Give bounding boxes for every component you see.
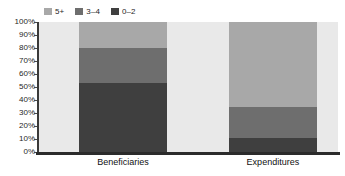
legend-label-3-4: 3–4: [86, 8, 100, 16]
y-axis-tick-label: 20%: [19, 122, 35, 130]
bar-segment[interactable]: [229, 138, 317, 152]
legend-item-3-4: 3–4: [75, 8, 100, 16]
y-axis-labels: 100%90%80%70%60%50%40%30%20%10%0%: [0, 22, 35, 152]
legend-item-5plus: 5+: [44, 8, 64, 16]
y-axis-tick-label: 80%: [19, 44, 35, 52]
bar-group: [38, 22, 338, 152]
y-axis-tick-label: 10%: [19, 135, 35, 143]
legend-label-0-2: 0–2: [122, 8, 136, 16]
bar-segment[interactable]: [229, 107, 317, 138]
y-axis-tick-label: 70%: [19, 57, 35, 65]
bar-beneficiaries[interactable]: [79, 22, 167, 152]
y-axis-tick-label: 90%: [19, 31, 35, 39]
stacked-bar-chart: 5+ 3–4 0–2 100%90%80%70%60%50%40%30%20%1…: [0, 0, 345, 176]
legend-swatch-5plus: [44, 8, 52, 15]
y-axis-tick-label: 30%: [19, 109, 35, 117]
x-axis-line: [36, 152, 340, 155]
plot-area-wrapper: [38, 22, 338, 152]
y-axis-tick-label: 60%: [19, 70, 35, 78]
x-axis-category-label: Beneficiaries: [97, 157, 149, 168]
legend-label-5plus: 5+: [55, 8, 64, 16]
legend-item-0-2: 0–2: [111, 8, 136, 16]
x-axis-category-label: Expenditures: [247, 157, 300, 168]
y-axis-tick-label: 40%: [19, 96, 35, 104]
chart-legend: 5+ 3–4 0–2: [44, 5, 136, 18]
bar-segment[interactable]: [79, 83, 167, 152]
bar-segment[interactable]: [79, 48, 167, 83]
legend-swatch-0-2: [111, 8, 119, 15]
y-axis-tick-label: 50%: [19, 83, 35, 91]
bar-expenditures[interactable]: [229, 22, 317, 152]
bar-segment[interactable]: [79, 22, 167, 48]
x-axis-labels: BeneficiariesExpenditures: [38, 157, 338, 171]
y-axis-tick-label: 100%: [15, 18, 35, 26]
bar-segment[interactable]: [229, 22, 317, 107]
legend-swatch-3-4: [75, 8, 83, 15]
